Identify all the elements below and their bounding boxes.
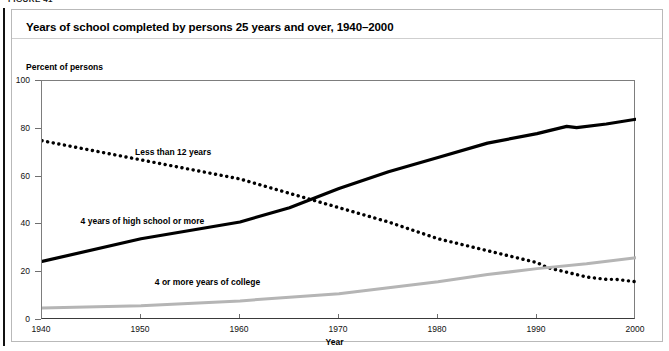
series-line [42,141,636,282]
figure-label: FIGURE 41 [8,0,53,4]
y-tick-label: 60 [0,171,30,181]
y-tick-label: 100 [0,75,30,85]
y-tick-label: 20 [0,266,30,276]
y-tick-label: 80 [0,123,30,133]
x-tick-label: 2000 [615,324,655,334]
chart-canvas [42,81,636,320]
page-title: Years of school completed by persons 25 … [26,21,393,33]
x-axis-title: Year [0,337,669,347]
series-line [42,258,636,308]
y-tick-label: 0 [0,314,30,324]
series-label: Less than 12 years [135,147,211,157]
x-tick-label: 1940 [21,324,61,334]
y-axis-title: Percent of persons [26,62,103,72]
y-tick-mark [35,319,41,320]
plot-area [41,80,635,319]
x-tick-label: 1970 [318,324,358,334]
x-tick-label: 1990 [516,324,556,334]
x-tick-label: 1950 [120,324,160,334]
series-label: 4 years of high school or more [81,216,205,226]
figure-root: FIGURE 41 Years of school completed by p… [0,0,669,351]
x-tick-label: 1980 [417,324,457,334]
series-line [42,119,636,261]
title-divider [12,38,662,39]
x-tick-label: 1960 [219,324,259,334]
y-tick-label: 40 [0,218,30,228]
series-label: 4 or more years of college [155,277,260,287]
